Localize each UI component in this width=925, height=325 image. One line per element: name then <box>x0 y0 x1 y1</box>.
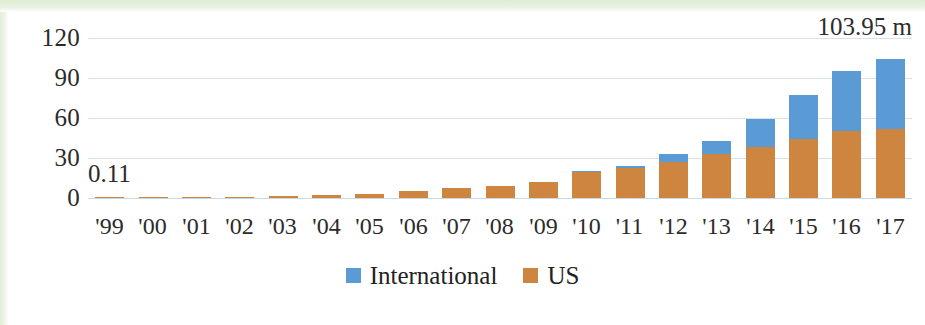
bar-segment-international[interactable] <box>876 59 905 129</box>
bar-group[interactable] <box>312 195 341 198</box>
bar-group[interactable] <box>442 188 471 198</box>
x-tick-label: '15 <box>782 212 825 240</box>
bar-group[interactable] <box>876 59 905 198</box>
legend-label: International <box>370 262 498 289</box>
y-tick-label: 30 <box>54 145 80 170</box>
bar-segment-us[interactable] <box>616 168 645 198</box>
x-tick-label: '11 <box>608 212 651 240</box>
bar-segment-international[interactable] <box>746 119 775 148</box>
legend-swatch-icon <box>523 268 538 283</box>
x-tick-label: '02 <box>218 212 261 240</box>
x-tick-label: '16 <box>825 212 868 240</box>
x-tick-label: '00 <box>131 212 174 240</box>
x-tick-label: '09 <box>522 212 565 240</box>
bar-group[interactable] <box>355 194 384 198</box>
annotation-first-value: 0.11 <box>88 161 131 186</box>
bar-segment-us[interactable] <box>702 154 731 198</box>
y-tick-label: 60 <box>54 105 80 130</box>
legend-entry[interactable]: US <box>523 262 579 289</box>
bar-group[interactable] <box>486 186 515 198</box>
bar-segment-international[interactable] <box>789 95 818 139</box>
bar-group[interactable] <box>95 197 124 199</box>
legend-swatch-icon <box>346 268 361 283</box>
bars-layer <box>88 30 912 206</box>
plot-area <box>88 30 912 206</box>
bar-segment-us[interactable] <box>832 131 861 198</box>
bar-group[interactable] <box>225 197 254 199</box>
x-tick-label: '08 <box>478 212 521 240</box>
bar-group[interactable] <box>572 171 601 198</box>
annotation-last-value: 103.95 m <box>818 14 912 39</box>
bar-segment-us[interactable] <box>572 171 601 198</box>
bar-segment-us[interactable] <box>269 196 298 198</box>
y-tick-label: 90 <box>54 65 80 90</box>
bar-group[interactable] <box>746 119 775 198</box>
bar-segment-international[interactable] <box>702 141 731 154</box>
bar-group[interactable] <box>269 196 298 198</box>
bar-group[interactable] <box>659 154 688 198</box>
bar-segment-us[interactable] <box>529 182 558 198</box>
x-tick-label: '13 <box>695 212 738 240</box>
bar-segment-us[interactable] <box>182 197 211 199</box>
bar-group[interactable] <box>399 191 428 198</box>
bar-group[interactable] <box>832 71 861 198</box>
x-tick-label: '14 <box>739 212 782 240</box>
bar-segment-us[interactable] <box>789 139 818 198</box>
bar-segment-international[interactable] <box>616 166 645 168</box>
x-tick-label: '03 <box>261 212 304 240</box>
x-tick-label: '07 <box>435 212 478 240</box>
bar-segment-us[interactable] <box>876 129 905 198</box>
bar-segment-international[interactable] <box>659 154 688 162</box>
x-tick-label: '05 <box>348 212 391 240</box>
bar-segment-us[interactable] <box>312 195 341 198</box>
bar-group[interactable] <box>139 197 168 199</box>
x-tick-label: '17 <box>869 212 912 240</box>
chart-legend: InternationalUS <box>0 262 925 289</box>
bar-segment-us[interactable] <box>442 188 471 198</box>
bar-segment-us[interactable] <box>355 194 384 198</box>
bar-segment-us[interactable] <box>486 186 515 198</box>
x-axis: '99'00'01'02'03'04'05'06'07'08'09'10'11'… <box>88 212 912 244</box>
bar-group[interactable] <box>529 182 558 198</box>
bar-group[interactable] <box>182 197 211 199</box>
legend-entry[interactable]: International <box>346 262 498 289</box>
y-axis: 0306090120 <box>14 30 80 206</box>
x-tick-label: '99 <box>88 212 131 240</box>
bar-group[interactable] <box>789 95 818 198</box>
x-tick-label: '06 <box>392 212 435 240</box>
x-tick-label: '01 <box>175 212 218 240</box>
x-tick-label: '12 <box>652 212 695 240</box>
stacked-bar-chart: 0306090120 0.11 103.95 m '99'00'01'02'03… <box>0 0 925 325</box>
bar-segment-us[interactable] <box>139 197 168 199</box>
bar-segment-us[interactable] <box>659 162 688 198</box>
bar-group[interactable] <box>616 166 645 198</box>
bar-group[interactable] <box>702 141 731 198</box>
bar-segment-international[interactable] <box>832 71 861 131</box>
bar-segment-us[interactable] <box>746 147 775 198</box>
bar-segment-us[interactable] <box>399 191 428 198</box>
legend-label: US <box>547 262 579 289</box>
y-tick-label: 120 <box>42 25 80 50</box>
bar-segment-us[interactable] <box>225 197 254 199</box>
y-tick-label: 0 <box>67 185 80 210</box>
x-tick-label: '04 <box>305 212 348 240</box>
x-tick-label: '10 <box>565 212 608 240</box>
bar-segment-us[interactable] <box>95 197 124 199</box>
